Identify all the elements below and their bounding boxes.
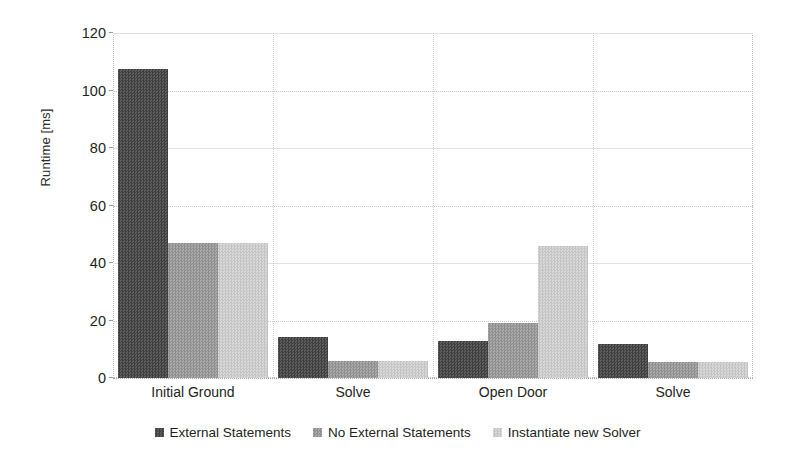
y-tick-mark xyxy=(109,205,113,206)
x-axis-category-label: Solve xyxy=(335,384,370,400)
y-tick-label: 0 xyxy=(54,370,106,386)
legend-label: No External Statements xyxy=(328,425,471,440)
x-gridline xyxy=(273,33,274,378)
x-axis-category-label: Initial Ground xyxy=(151,384,234,400)
bar xyxy=(648,362,698,378)
bar xyxy=(168,243,218,378)
plot-area: 020406080100120 xyxy=(113,33,753,378)
bar xyxy=(118,69,168,378)
bar xyxy=(538,246,588,378)
legend-label: Instantiate new Solver xyxy=(508,425,641,440)
y-tick-mark xyxy=(109,32,113,33)
x-axis-category-label: Open Door xyxy=(479,384,547,400)
legend-label: External Statements xyxy=(170,425,292,440)
chart-legend: External StatementsNo External Statement… xyxy=(0,425,795,440)
y-tick-mark xyxy=(109,262,113,263)
bar xyxy=(598,344,648,379)
legend-item[interactable]: No External Statements xyxy=(313,425,471,440)
x-gridline xyxy=(593,33,594,378)
y-tick-label: 40 xyxy=(54,255,106,271)
y-tick-mark xyxy=(109,320,113,321)
y-gridline xyxy=(113,378,753,379)
legend-swatch-icon xyxy=(155,428,164,437)
bar xyxy=(438,341,488,378)
legend-swatch-icon xyxy=(493,428,502,437)
y-tick-mark xyxy=(109,147,113,148)
bar-chart: Runtime [ms] 020406080100120 External St… xyxy=(0,0,795,466)
y-tick-label: 80 xyxy=(54,140,106,156)
y-tick-mark xyxy=(109,377,113,378)
legend-item[interactable]: External Statements xyxy=(155,425,292,440)
legend-item[interactable]: Instantiate new Solver xyxy=(493,425,641,440)
y-tick-label: 60 xyxy=(54,198,106,214)
y-axis-title: Runtime [ms] xyxy=(38,68,53,228)
bar xyxy=(218,243,268,378)
y-tick-mark xyxy=(109,90,113,91)
bar xyxy=(278,337,328,378)
bar xyxy=(698,362,748,378)
bar xyxy=(488,323,538,378)
y-tick-label: 100 xyxy=(54,83,106,99)
bar xyxy=(328,361,378,378)
x-gridline xyxy=(433,33,434,378)
x-axis-category-label: Solve xyxy=(655,384,690,400)
y-tick-label: 20 xyxy=(54,313,106,329)
legend-swatch-icon xyxy=(313,428,322,437)
bar xyxy=(378,361,428,378)
y-tick-label: 120 xyxy=(54,25,106,41)
